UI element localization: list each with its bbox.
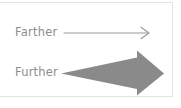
tapered-block-arrow-icon [58, 48, 168, 97]
thin-line-arrow-icon [62, 23, 154, 43]
farther-label: Farther [15, 25, 57, 39]
diagram-card: Farther Further [0, 2, 173, 97]
further-label: Further [15, 65, 58, 79]
